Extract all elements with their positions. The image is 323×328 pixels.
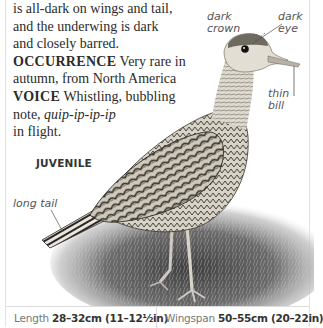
occurrence-line-1: OCCURRENCE Very rare in [13,53,178,71]
wingspan-value: 50–55cm (20–22in) [218,312,323,324]
description-line-2: and the underwing is dark [13,18,178,36]
voice-text-2-prefix: note, [13,107,44,122]
occurrence-text-2: autumn, from North America [13,70,178,88]
length-value: 28–32cm (11–12½in) [52,312,168,324]
description-line-1: is all-dark on wings and tail, [13,0,178,18]
voice-call: quip-ip-ip-ip [44,107,116,122]
length-measurement: Length 28–32cm (11–12½in) [6,307,157,328]
annotation-eye-line-2: eye [278,23,303,35]
annotation-dark-crown: dark crown [207,11,240,35]
occurrence-text-1: Very rare in [120,54,186,69]
annotation-thin-bill: thin bill [268,88,289,112]
voice-text-1: Whistling, bubbling [63,89,175,104]
description-line-3: and closely barred. [13,35,178,53]
annotation-dark-eye: dark eye [278,11,303,35]
voice-line-1: VOICE Whistling, bubbling [13,88,178,106]
wingspan-label: Wingspan [165,312,215,324]
age-stage-label: JUVENILE [36,157,92,169]
voice-heading: VOICE [13,89,60,104]
voice-text-3: in flight. [13,123,178,141]
occurrence-heading: OCCURRENCE [13,54,116,69]
annotation-bill-line-2: bill [268,100,289,112]
length-label: Length [14,312,49,324]
wingspan-measurement: Wingspan 50–55cm (20–22in) [157,307,323,328]
species-description: is all-dark on wings and tail, and the u… [13,0,178,141]
measurements-bar: Length 28–32cm (11–12½in) Wingspan 50–55… [6,306,309,328]
voice-line-2: note, quip-ip-ip-ip [13,106,178,124]
annotation-long-tail: long tail [13,198,57,210]
annotation-crown-line-2: crown [207,23,240,35]
